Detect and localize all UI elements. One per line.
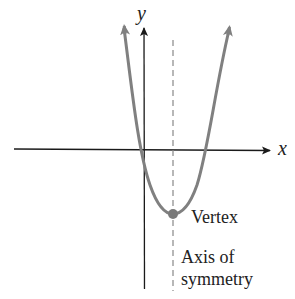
axis-of-symmetry-label-line1: Axis of	[181, 248, 235, 266]
y-axis-label: y	[137, 3, 146, 23]
axis-of-symmetry-label-line2: symmetry	[181, 270, 253, 288]
diagram-canvas	[0, 0, 295, 299]
right-arrowhead	[228, 27, 230, 35]
parabola-curve	[124, 28, 229, 214]
left-arrowhead	[124, 26, 125, 34]
x-axis-label: x	[278, 138, 287, 158]
vertex-label: Vertex	[191, 208, 238, 226]
vertex-point	[168, 209, 178, 219]
parabola-diagram: y x Vertex Axis of symmetry	[0, 0, 295, 299]
